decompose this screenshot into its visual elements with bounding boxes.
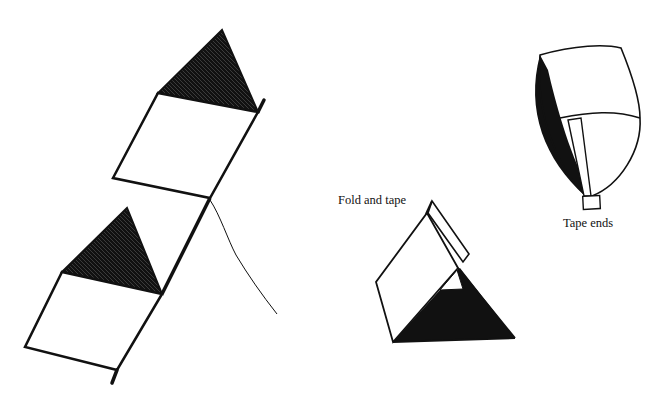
fold-and-tape-label: Fold and tape [338, 193, 406, 208]
cell-end-view [535, 46, 640, 210]
upper-cell-face [113, 93, 258, 198]
folded-cell [376, 201, 515, 342]
kite-spar [162, 198, 210, 294]
box-kite [25, 30, 277, 383]
tape-ends-label: Tape ends [563, 216, 613, 231]
diagram-canvas [0, 0, 655, 401]
bridle-string [210, 200, 277, 314]
